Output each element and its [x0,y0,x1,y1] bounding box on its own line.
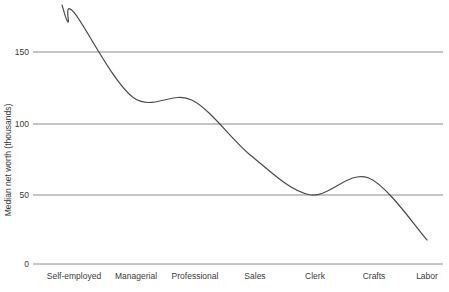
x-category-label-self-employed: Self-employed [47,271,102,281]
y-axis-title: Median net worth (thousands) [3,104,13,217]
y-tick-label-50: 50 [20,190,30,200]
x-category-label-managerial: Managerial [115,271,157,281]
x-category-label-crafts: Crafts [363,271,386,281]
x-category-label-professional: Professional [172,271,219,281]
chart-container: 150 100 50 0 Median net worth (thousands… [0,0,449,292]
x-category-label-sales: Sales [244,271,265,281]
y-tick-label-100: 100 [15,119,29,129]
x-category-label-clerk: Clerk [305,271,326,281]
x-category-label-labor: Labor [416,271,438,281]
line-chart: 150 100 50 0 Median net worth (thousands… [0,0,449,292]
chart-background [0,0,449,292]
y-tick-label-150: 150 [15,47,29,57]
y-tick-label-0: 0 [24,259,29,269]
